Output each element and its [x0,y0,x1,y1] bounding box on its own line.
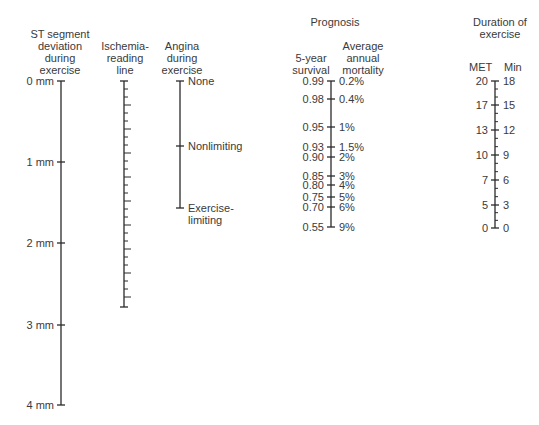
min-tick-label: 9 [503,149,509,161]
exercise-test-nomogram: ST segment deviation during exercise Isc… [0,0,539,425]
mortality-tick-label: 9% [339,221,355,233]
min-tick-label: 0 [503,222,509,234]
st-tick-label: 3 mm [27,319,55,331]
mortality-tick-label: 2% [339,151,355,163]
st-tick-label: 4 mm [27,399,55,411]
min-tick-label: 6 [503,174,509,186]
angina-tick-label: None [188,75,214,87]
st-tick-label: 1 mm [27,156,55,168]
mortality-tick-label: 4% [339,179,355,191]
min-tick-label: 15 [503,99,515,111]
survival-header: 5-year survival [289,52,333,76]
survival-tick-label: 0.70 [303,201,324,213]
min-tick-label: 3 [503,199,509,211]
angina-tick-label: limiting [188,214,222,226]
st-tick-label: 0 mm [27,75,55,87]
duration-header: Duration of exercise [462,16,538,40]
survival-tick-label: 0.95 [303,121,324,133]
met-tick-label: 17 [476,99,488,111]
prognosis-header: Prognosis [300,16,370,28]
st-segment-header: ST segment deviation during exercise [20,28,100,76]
mortality-header: Average annual mortality [336,40,390,76]
survival-tick-label: 0.99 [303,75,324,87]
angina-header: Angina during exercise [152,40,212,76]
min-tick-label: 12 [503,124,515,136]
angina-tick-label: Exercise- [188,202,234,214]
survival-tick-label: 0.80 [303,179,324,191]
angina-tick-label: Nonlimiting [188,140,242,152]
mortality-tick-label: 6% [339,201,355,213]
ischemia-line-header: Ischemia- reading line [98,40,152,76]
survival-tick-label: 0.90 [303,151,324,163]
met-tick-label: 0 [482,222,488,234]
min-tick-label: 18 [503,75,515,87]
mortality-tick-label: 0.2% [339,75,364,87]
met-tick-label: 13 [476,124,488,136]
mortality-tick-label: 1% [339,121,355,133]
met-tick-label: 5 [482,199,488,211]
met-tick-label: 7 [482,174,488,186]
survival-tick-label: 0.98 [303,93,324,105]
st-tick-label: 2 mm [27,237,55,249]
met-header: MET [469,61,492,73]
survival-tick-label: 0.55 [303,221,324,233]
met-tick-label: 10 [476,149,488,161]
min-header: Min [504,61,522,73]
mortality-tick-label: 0.4% [339,93,364,105]
met-tick-label: 20 [476,75,488,87]
